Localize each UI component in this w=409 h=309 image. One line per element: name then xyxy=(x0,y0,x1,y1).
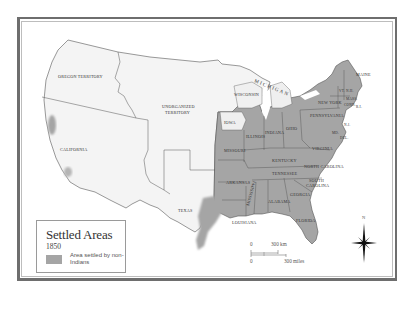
legend-year: 1850 xyxy=(46,242,61,251)
label-unorganized-line1: UNORGANIZED xyxy=(162,104,195,109)
label-maryland: MD. xyxy=(332,131,339,135)
scale-mi-zero: 0 xyxy=(250,258,253,264)
scale-km-zero: 0 xyxy=(250,241,253,247)
label-indiana: INDIANA xyxy=(265,130,284,135)
california-settled-area xyxy=(48,115,56,135)
label-north-carolina: NORTH CAROLINA xyxy=(304,164,344,169)
label-ohio: OHIO xyxy=(286,126,297,131)
label-iowa: IOWA xyxy=(224,120,236,125)
legend-title: Settled Areas xyxy=(46,227,112,243)
label-virginia: VIRGINIA xyxy=(312,146,333,151)
label-florida: FLORIDA xyxy=(296,218,316,223)
compass-rose-icon: N xyxy=(351,215,377,263)
label-missouri: MISSOURI xyxy=(224,148,246,153)
legend-swatch-settled xyxy=(46,255,62,264)
legend: Settled Areas 1850 Area settled by non-I… xyxy=(36,220,126,273)
label-rhode-island: R.I. xyxy=(356,105,362,109)
label-maine: MAINE xyxy=(356,72,371,77)
label-new-jersey: N.J. xyxy=(344,123,350,127)
label-pennsylvania: PENNSYLVANIA xyxy=(310,113,344,118)
california-coast-settled xyxy=(64,167,72,177)
label-arkansas: ARKANSAS xyxy=(226,180,251,185)
legend-swatch-label: Area settled by non-Indians xyxy=(70,252,126,266)
label-georgia: GEORGIA xyxy=(290,192,310,197)
label-alabama: ALABAMA xyxy=(268,199,291,204)
label-tennessee: TENNESSEE xyxy=(272,171,298,176)
label-vermont: VT. xyxy=(339,89,345,93)
label-wisconsin: WISCONSIN xyxy=(234,92,259,97)
scale-km-label: 300 km xyxy=(271,241,287,247)
label-louisiana: LOUISIANA xyxy=(232,220,257,225)
label-new-york: NEW YORK xyxy=(318,100,342,105)
label-illinois: ILLINOIS xyxy=(246,134,266,139)
label-kentucky: KENTUCKY xyxy=(272,158,297,163)
label-unorganized-line2: TERRITORY xyxy=(165,110,190,115)
label-delaware: DEL. xyxy=(340,136,348,140)
label-california: CALIFORNIA xyxy=(60,147,87,152)
label-south-carolina-2: CAROLINA xyxy=(306,183,329,188)
label-connecticut: CONN. xyxy=(344,103,356,107)
label-texas: TEXAS xyxy=(178,208,193,213)
compass-north-label: N xyxy=(362,215,366,220)
label-new-hampshire: N.H. xyxy=(346,89,354,93)
scale-mi-label: 300 miles xyxy=(284,258,304,264)
label-massachusetts: MASS. xyxy=(346,97,357,101)
label-oregon-territory: OREGON TERRITORY xyxy=(58,74,103,79)
